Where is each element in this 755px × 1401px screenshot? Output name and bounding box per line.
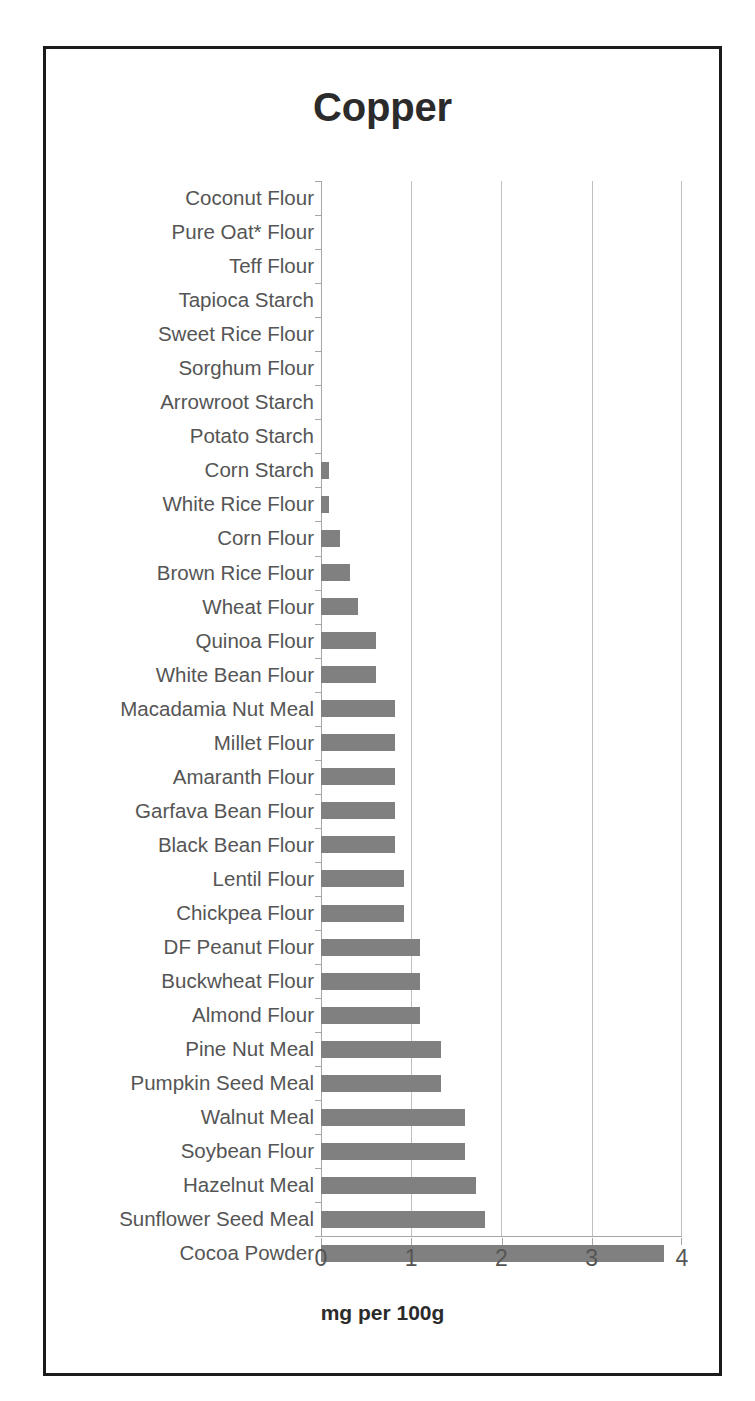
bar-row xyxy=(321,419,682,453)
y-axis-label: Lentil Flour xyxy=(86,862,314,896)
x-tick-label: 4 xyxy=(676,1245,689,1272)
bar-row xyxy=(321,896,682,930)
y-tick-mark xyxy=(315,726,321,727)
bar-row xyxy=(321,590,682,624)
y-axis-label: Sunflower Seed Meal xyxy=(86,1202,314,1236)
y-tick-mark xyxy=(315,1066,321,1067)
bar xyxy=(321,1041,441,1058)
bar-row xyxy=(321,658,682,692)
y-axis-label: Corn Starch xyxy=(86,453,314,487)
y-axis-label: DF Peanut Flour xyxy=(86,930,314,964)
y-axis-label: Millet Flour xyxy=(86,726,314,760)
bar-row xyxy=(321,1032,682,1066)
bar xyxy=(321,496,329,513)
y-tick-mark xyxy=(315,1168,321,1169)
y-axis-label: Teff Flour xyxy=(86,249,314,283)
bar-row xyxy=(321,1066,682,1100)
y-tick-mark xyxy=(315,624,321,625)
bar xyxy=(321,1075,441,1092)
y-tick-mark xyxy=(315,385,321,386)
bar-row xyxy=(321,1168,682,1202)
y-axis-label: Arrowroot Starch xyxy=(86,385,314,419)
y-axis-label: Amaranth Flour xyxy=(86,760,314,794)
y-axis-label: Potato Starch xyxy=(86,419,314,453)
bar-row xyxy=(321,317,682,351)
y-axis-label: Almond Flour xyxy=(86,998,314,1032)
y-tick-mark xyxy=(315,760,321,761)
bar xyxy=(321,905,404,922)
bar-row xyxy=(321,1202,682,1236)
x-tick-label: 1 xyxy=(405,1245,418,1272)
plot-area xyxy=(321,181,682,1237)
y-axis-label: Tapioca Starch xyxy=(86,283,314,317)
bar xyxy=(321,598,358,615)
y-tick-mark xyxy=(315,1100,321,1101)
bar xyxy=(321,973,420,990)
y-axis-label: Black Bean Flour xyxy=(86,828,314,862)
bar-row xyxy=(321,487,682,521)
bar-row xyxy=(321,794,682,828)
y-axis-label: Garfava Bean Flour xyxy=(86,794,314,828)
bar xyxy=(321,939,420,956)
y-tick-mark xyxy=(315,556,321,557)
y-tick-mark xyxy=(315,215,321,216)
y-axis-category-labels: Coconut FlourPure Oat* FlourTeff FlourTa… xyxy=(86,181,314,1237)
bar xyxy=(321,1109,465,1126)
y-tick-mark xyxy=(315,181,321,182)
bar-row xyxy=(321,556,682,590)
bar-row xyxy=(321,692,682,726)
bar xyxy=(321,802,395,819)
y-axis-label: Walnut Meal xyxy=(86,1100,314,1134)
bar-row xyxy=(321,521,682,555)
bar xyxy=(321,734,395,751)
y-tick-mark xyxy=(315,590,321,591)
y-tick-mark xyxy=(315,964,321,965)
chart-title: Copper xyxy=(46,85,719,130)
bar-row xyxy=(321,351,682,385)
y-axis-label: Corn Flour xyxy=(86,521,314,555)
y-tick-mark xyxy=(315,521,321,522)
y-axis-label: Chickpea Flour xyxy=(86,896,314,930)
bar xyxy=(321,530,340,547)
y-tick-mark xyxy=(315,487,321,488)
y-axis-label: Soybean Flour xyxy=(86,1134,314,1168)
y-axis-label: Sorghum Flour xyxy=(86,351,314,385)
y-tick-mark xyxy=(315,453,321,454)
y-tick-mark xyxy=(315,419,321,420)
bar-row xyxy=(321,1100,682,1134)
y-axis-label: Cocoa Powder xyxy=(86,1236,314,1270)
bar-row xyxy=(321,726,682,760)
y-axis-label: Macadamia Nut Meal xyxy=(86,692,314,726)
x-tick-mark xyxy=(592,1238,593,1245)
y-tick-mark xyxy=(315,794,321,795)
y-tick-mark xyxy=(315,1134,321,1135)
bar xyxy=(321,1177,476,1194)
y-tick-mark xyxy=(315,1202,321,1203)
bar xyxy=(321,1007,420,1024)
y-tick-mark xyxy=(315,317,321,318)
bar-row xyxy=(321,249,682,283)
bar xyxy=(321,700,395,717)
y-axis-label: Buckwheat Flour xyxy=(86,964,314,998)
bar-row xyxy=(321,964,682,998)
y-tick-mark xyxy=(315,896,321,897)
x-tick-label: 2 xyxy=(495,1245,508,1272)
bar xyxy=(321,462,329,479)
y-axis-label: White Rice Flour xyxy=(86,487,314,521)
y-axis-label: Pine Nut Meal xyxy=(86,1032,314,1066)
y-tick-mark xyxy=(315,998,321,999)
bar xyxy=(321,666,376,683)
y-tick-mark xyxy=(315,828,321,829)
x-tick-label: 0 xyxy=(315,1245,328,1272)
x-axis-tick-labels: 01234 xyxy=(321,1245,682,1279)
x-tick-mark xyxy=(681,1238,682,1245)
bar xyxy=(321,836,395,853)
bar xyxy=(321,1211,485,1228)
bar xyxy=(321,564,350,581)
bar-row xyxy=(321,828,682,862)
y-tick-mark xyxy=(315,862,321,863)
y-tick-mark xyxy=(315,1032,321,1033)
bar-series xyxy=(321,181,682,1237)
y-axis-label: Brown Rice Flour xyxy=(86,556,314,590)
bar-row xyxy=(321,624,682,658)
